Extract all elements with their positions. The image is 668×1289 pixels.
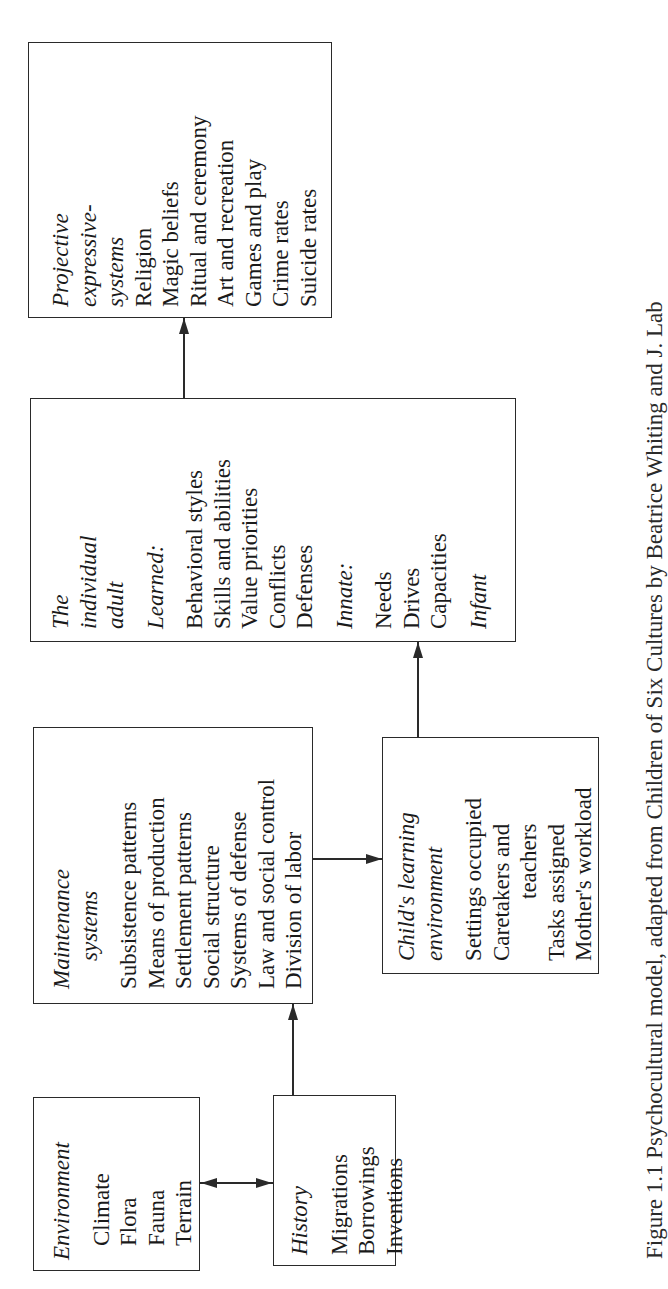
- adult-learned-item: Skills and abilities: [209, 399, 237, 629]
- childs-item: Tasks assigned: [543, 738, 571, 961]
- adult-innate-item: Capacities: [425, 399, 453, 629]
- projective-item: Ritual and ceremony: [185, 43, 213, 307]
- environment-item: Flora: [115, 1098, 143, 1260]
- projective-item: Art and recreation: [212, 43, 240, 307]
- history-item: Inventions: [381, 1096, 409, 1255]
- environment-title: Environment: [48, 1098, 76, 1260]
- adult-infant-label: Infant: [465, 399, 493, 629]
- maintenance-item: Systems of defense: [225, 728, 253, 989]
- environment-box: Environment Climate Flora Fauna Terrain: [33, 1097, 200, 1271]
- adult-innate-label: Innate:: [331, 399, 359, 629]
- arrowhead-up-icon: [179, 318, 189, 334]
- adult-title-line-3: adult: [102, 399, 130, 629]
- maintenance-item: Division of labor: [280, 728, 308, 989]
- figure-caption: Figure 1.1 Psychocultural model, adapted…: [642, 301, 668, 1289]
- history-item: Borrowings: [353, 1096, 381, 1255]
- maintenance-item: Social structure: [198, 728, 226, 989]
- environment-item: Fauna: [143, 1098, 171, 1260]
- projective-item: Suicide rates: [295, 43, 323, 307]
- arrowhead-right-icon: [366, 854, 382, 864]
- history-item: Migrations: [326, 1096, 354, 1255]
- projective-item: Magic beliefs: [157, 43, 185, 307]
- arrowhead-right-icon: [256, 1178, 272, 1188]
- childs-item: Caretakers and: [488, 738, 516, 961]
- projective-title-line-3: systems: [102, 43, 130, 307]
- projective-title-line-2: expressive-: [75, 43, 103, 307]
- adult-learned-item: Behavioral styles: [181, 399, 209, 629]
- childs-item: teachers: [515, 738, 543, 961]
- environment-item: Terrain: [170, 1098, 198, 1260]
- adult-learned-item: Value priorities: [236, 399, 264, 629]
- projective-item: Games and play: [240, 43, 268, 307]
- maintenance-item: Settlement patterns: [170, 728, 198, 989]
- projective-expressive-systems-box: Projective expressive- systems Religion …: [28, 42, 332, 318]
- projective-title-line-1: Projective: [47, 43, 75, 307]
- childs-title-line-1: Child's learning: [393, 738, 421, 961]
- adult-title-line-1: The: [47, 399, 75, 629]
- arrowhead-up-icon: [288, 1004, 298, 1020]
- childs-title-line-2: environment: [421, 738, 449, 961]
- projective-item: Religion: [130, 43, 158, 307]
- projective-item: Crime rates: [267, 43, 295, 307]
- maintenance-title-line-2: systems: [76, 728, 104, 989]
- history-box: History Migrations Borrowings Inventions: [273, 1095, 396, 1266]
- adult-innate-item: Needs: [370, 399, 398, 629]
- childs-item: Settings occupied: [460, 738, 488, 961]
- individual-adult-box: The individual adult Learned: Behavioral…: [30, 398, 516, 642]
- environment-item: Climate: [88, 1098, 116, 1260]
- adult-learned-label: Learned:: [142, 399, 170, 629]
- adult-innate-item: Drives: [398, 399, 426, 629]
- adult-learned-item: Conflicts: [264, 399, 292, 629]
- maintenance-systems-box: Maintenance systems Subsistence patterns…: [33, 727, 313, 1004]
- maintenance-item: Means of production: [143, 728, 171, 989]
- maintenance-title-line-1: Maintenance: [48, 728, 76, 989]
- maintenance-item: Subsistence patterns: [115, 728, 143, 989]
- adult-learned-item: Defenses: [291, 399, 319, 629]
- childs-learning-environment-box: Child's learning environment Settings oc…: [382, 737, 599, 974]
- maintenance-item: Law and social control: [253, 728, 281, 989]
- history-title: History: [286, 1096, 314, 1255]
- adult-title-line-2: individual: [75, 399, 103, 629]
- arrowhead-up-icon: [413, 642, 423, 658]
- childs-item: Mother's workload: [570, 738, 598, 961]
- arrowhead-left-icon: [201, 1178, 217, 1188]
